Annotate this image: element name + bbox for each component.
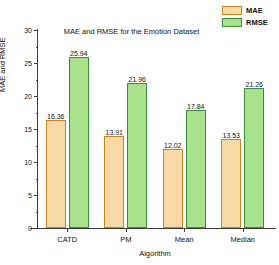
x-tick-mark [126,228,127,232]
legend-swatch-rmse [222,18,242,27]
y-tick-label: 25 [24,60,32,67]
bar-value-label: 12.02 [164,142,182,149]
bar-mae-mean[interactable]: 12.02 [163,149,183,228]
bar-mae-median[interactable]: 13.53 [221,139,241,228]
bar-value-label: 13.53 [222,132,240,139]
y-tick-mark [34,228,38,229]
legend-label-rmse: RMSE [246,18,268,27]
bar-rmse-catd[interactable]: 25.94 [69,57,89,228]
bar-value-label: 17.84 [187,103,205,110]
bar-rmse-mean[interactable]: 17.84 [186,110,206,228]
bar-rmse-median[interactable]: 21.26 [244,88,264,228]
y-tick-label: 10 [24,159,32,166]
legend-item-mae: MAE [222,5,276,16]
legend-swatch-mae [222,6,242,15]
bar-value-label: 13.91 [105,129,123,136]
y-axis-title: MAE and RMSE [0,37,7,92]
bar-value-label: 21.26 [245,81,263,88]
y-tick-label: 0 [28,225,32,232]
bar-value-label: 25.94 [70,50,88,57]
bar-mae-catd[interactable]: 16.36 [46,120,66,228]
bar-mae-pm[interactable]: 13.91 [104,136,124,228]
x-tick-label-median: Median [230,235,255,244]
bar-value-label: 16.36 [47,113,65,120]
x-tick-label-mean: Mean [175,235,194,244]
plot-area: 051015202530 16.3625.94CATD13.9121.96PM1… [38,30,272,228]
bar-rmse-pm[interactable]: 21.96 [127,83,147,228]
y-tick-label: 5 [28,192,32,199]
chart-legend: MAE RMSE [222,5,276,29]
x-tick-mark [184,228,185,232]
bar-group: 12.0217.84Mean [155,30,214,228]
x-axis-title: Algorithm [38,249,272,258]
x-tick-label-pm: PM [120,235,131,244]
y-tick-label: 30 [24,27,32,34]
bar-group: 13.5321.26Median [214,30,273,228]
y-tick-label: 15 [24,126,32,133]
legend-label-mae: MAE [246,6,263,15]
x-tick-mark [243,228,244,232]
bar-value-label: 21.96 [128,76,146,83]
bar-group: 13.9121.96PM [97,30,156,228]
y-tick-label: 20 [24,93,32,100]
x-tick-label-catd: CATD [57,235,77,244]
bar-group: 16.3625.94CATD [38,30,97,228]
legend-item-rmse: RMSE [222,17,276,28]
bar-chart: MAE RMSE MAE and RMSE for the Emotion Da… [0,0,279,265]
x-tick-mark [67,228,68,232]
